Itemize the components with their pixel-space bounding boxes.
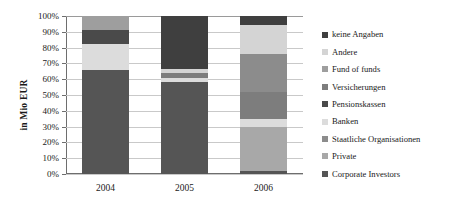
legend-swatch-icon bbox=[322, 171, 328, 177]
legend-swatch-icon bbox=[322, 32, 328, 38]
y-tick-mark bbox=[62, 95, 66, 96]
bar-segment[interactable] bbox=[82, 70, 128, 174]
bar-segment[interactable] bbox=[240, 16, 286, 25]
bar-segment[interactable] bbox=[82, 16, 128, 30]
bar-segment[interactable] bbox=[161, 82, 207, 174]
bar-segment[interactable] bbox=[161, 73, 207, 78]
x-tick-label: 2005 bbox=[175, 183, 194, 193]
bar-segment[interactable] bbox=[240, 92, 286, 119]
y-tick-mark bbox=[62, 48, 66, 49]
y-tick-label: 10% bbox=[43, 153, 60, 163]
legend-swatch-icon bbox=[322, 101, 328, 107]
bar-segment[interactable] bbox=[240, 54, 286, 92]
x-tick-label: 2004 bbox=[96, 183, 115, 193]
y-tick-mark bbox=[62, 142, 66, 143]
bar-segment[interactable] bbox=[240, 171, 286, 174]
y-tick-mark bbox=[62, 158, 66, 159]
bar-segment[interactable] bbox=[161, 16, 207, 69]
legend-item[interactable]: Versicherungen bbox=[322, 78, 448, 95]
y-tick-label: 50% bbox=[43, 90, 60, 100]
bar-stack[interactable] bbox=[161, 16, 207, 174]
y-tick-mark bbox=[62, 127, 66, 128]
legend-label: Pensionskassen bbox=[332, 100, 385, 109]
legend-item[interactable]: Banken bbox=[322, 113, 448, 130]
y-tick-label: 100% bbox=[38, 11, 59, 21]
legend-swatch-icon bbox=[322, 49, 328, 55]
plot-area: 100%90%80%70%60%50%40%30%20%10%0% 200420… bbox=[66, 16, 303, 174]
bar-segment[interactable] bbox=[240, 127, 286, 171]
y-tick-mark bbox=[62, 16, 66, 17]
legend-swatch-icon bbox=[322, 119, 328, 125]
legend-label: Private bbox=[332, 152, 356, 161]
y-tick-label: 80% bbox=[43, 43, 60, 53]
legend-label: Versicherungen bbox=[332, 83, 385, 92]
legend-label: keine Angaben bbox=[332, 30, 383, 39]
y-tick-label: 70% bbox=[43, 58, 60, 68]
legend-swatch-icon bbox=[322, 84, 328, 90]
gridline bbox=[66, 174, 303, 175]
legend-swatch-icon bbox=[322, 136, 328, 142]
y-tick-mark bbox=[62, 174, 66, 175]
x-tick-label: 2006 bbox=[254, 183, 273, 193]
bar-group: 2006 bbox=[240, 16, 286, 174]
legend-item[interactable]: Pensionskassen bbox=[322, 96, 448, 113]
legend-item[interactable]: Corporate Investors bbox=[322, 165, 448, 182]
bar-segment[interactable] bbox=[240, 119, 286, 127]
bar-stack[interactable] bbox=[82, 16, 128, 174]
legend-label: Staatliche Organisationen bbox=[332, 135, 420, 144]
legend: keine AngabenAndereFund of fundsVersiche… bbox=[322, 26, 448, 183]
bar-segment[interactable] bbox=[161, 78, 207, 82]
bar-segment[interactable] bbox=[240, 25, 286, 53]
y-tick-mark bbox=[62, 63, 66, 64]
legend-item[interactable]: Private bbox=[322, 148, 448, 165]
y-tick-label: 30% bbox=[43, 122, 60, 132]
legend-label: Andere bbox=[332, 48, 357, 57]
legend-item[interactable]: Staatliche Organisationen bbox=[322, 130, 448, 147]
y-tick-label: 90% bbox=[43, 27, 60, 37]
y-tick-label: 0% bbox=[47, 169, 59, 179]
legend-item[interactable]: Andere bbox=[322, 43, 448, 60]
legend-swatch-icon bbox=[322, 66, 328, 72]
stacked-bar-chart: in Mio EUR 100%90%80%70%60%50%40%30%20%1… bbox=[0, 0, 450, 210]
legend-swatch-icon bbox=[322, 153, 328, 159]
y-tick-label: 60% bbox=[43, 74, 60, 84]
y-tick-mark bbox=[62, 32, 66, 33]
bar-group: 2005 bbox=[161, 16, 207, 174]
legend-label: Fund of funds bbox=[332, 65, 380, 74]
y-axis-title: in Mio EUR bbox=[19, 79, 29, 130]
y-tick-label: 20% bbox=[43, 137, 60, 147]
bar-segment[interactable] bbox=[161, 69, 207, 73]
legend-item[interactable]: Fund of funds bbox=[322, 61, 448, 78]
y-tick-mark bbox=[62, 79, 66, 80]
y-tick-mark bbox=[62, 111, 66, 112]
legend-label: Corporate Investors bbox=[332, 170, 400, 179]
y-tick-label: 40% bbox=[43, 106, 60, 116]
bar-stack[interactable] bbox=[240, 16, 286, 174]
bar-segment[interactable] bbox=[82, 30, 128, 44]
bar-group: 2004 bbox=[82, 16, 128, 174]
legend-item[interactable]: keine Angaben bbox=[322, 26, 448, 43]
legend-label: Banken bbox=[332, 117, 358, 126]
bar-segment[interactable] bbox=[82, 44, 128, 69]
